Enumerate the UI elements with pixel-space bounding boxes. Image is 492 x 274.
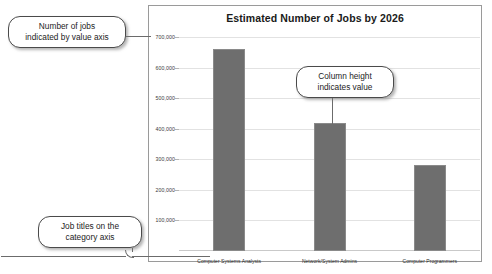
callout-column-height: Column height indicates value [296,66,394,98]
y-axis-tick-mark [175,37,179,38]
callout-column-height-line1: Column height [304,71,386,82]
y-axis-tick-mark [175,220,179,221]
y-axis-tick-label: 500,000 [115,95,175,101]
y-axis-tick-mark [175,190,179,191]
bar-2 [414,165,446,251]
callout-column-height-line2: indicates value [304,82,386,93]
callout-value-axis-line2: indicated by value axis [16,32,118,43]
y-axis-tick-label: 200,000 [115,187,175,193]
category-axis-label: Network/System Admins [302,258,357,264]
callout-category-axis-line1: Job titles on the [46,221,134,232]
leader-line-value-axis [126,36,151,37]
callout-category-axis-line2: category axis [46,232,134,243]
leader-line-category-axis-left [1,256,126,257]
chart-container: Estimated Number of Jobs by 2026 700,000… [148,5,482,262]
callout-value-axis: Number of jobs indicated by value axis [8,16,126,48]
bar-0 [213,49,245,251]
leader-line-category-axis-right [132,256,210,257]
category-axis-label: Computer Systems Analysts [197,258,261,264]
y-axis-tick-mark [175,159,179,160]
gridline [179,37,480,38]
category-axis-label: Computer Programmers [403,258,458,264]
callout-value-axis-line1: Number of jobs [16,21,118,32]
y-axis-tick-mark [175,68,179,69]
y-axis-tick-label: 300,000 [115,156,175,162]
y-axis-tick-mark [175,129,179,130]
callout-category-axis: Job titles on the category axis [38,216,142,248]
bar-1 [314,123,346,251]
leader-line-column-height [332,98,333,124]
y-axis-tick-mark [175,98,179,99]
y-axis-tick-label: 600,000 [115,65,175,71]
chart-title: Estimated Number of Jobs by 2026 [149,12,481,24]
y-axis-tick-label: 400,000 [115,126,175,132]
